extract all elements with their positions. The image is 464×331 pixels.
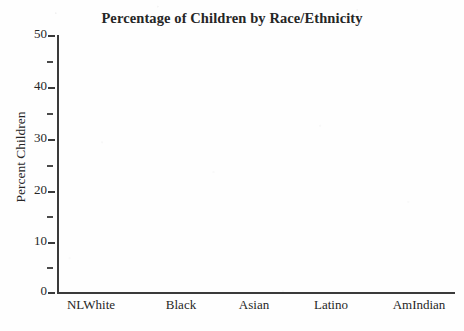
y-axis-tick-label: 30 xyxy=(34,131,47,144)
y-axis-tick-mark xyxy=(48,191,55,193)
y-axis-tick-mark xyxy=(47,267,53,269)
x-axis-category-label: Latino xyxy=(314,298,348,311)
y-axis-tick-label: 0 xyxy=(41,284,48,297)
x-axis-category-label: Black xyxy=(166,298,196,311)
y-axis-tick-mark xyxy=(48,242,55,244)
y-axis-title: Percent Children xyxy=(13,87,29,227)
x-axis-line xyxy=(57,292,455,294)
plot-area xyxy=(59,36,455,292)
y-axis-tick-mark xyxy=(48,35,55,37)
x-axis-category-label: NLWhite xyxy=(67,298,115,311)
y-axis-tick-mark xyxy=(48,87,55,89)
y-axis-tick-mark xyxy=(47,61,53,63)
y-axis-tick-label: 40 xyxy=(34,79,47,92)
y-axis-tick-label: 10 xyxy=(34,234,47,247)
y-axis-tick-mark xyxy=(47,216,53,218)
x-axis-category-label: Asian xyxy=(239,298,269,311)
y-axis-tick-mark xyxy=(47,165,53,167)
y-axis-tick-mark xyxy=(48,292,55,294)
chart-title: Percentage of Children by Race/Ethnicity xyxy=(0,10,464,27)
y-axis-tick-mark xyxy=(47,113,53,115)
y-axis-tick-label: 50 xyxy=(34,27,47,40)
chart-figure: Percentage of Children by Race/Ethnicity… xyxy=(0,0,464,331)
y-axis-tick-label: 20 xyxy=(34,183,47,196)
y-axis-tick-mark xyxy=(48,139,55,141)
x-axis-category-label: AmIndian xyxy=(393,298,446,311)
series-layer xyxy=(59,36,455,292)
